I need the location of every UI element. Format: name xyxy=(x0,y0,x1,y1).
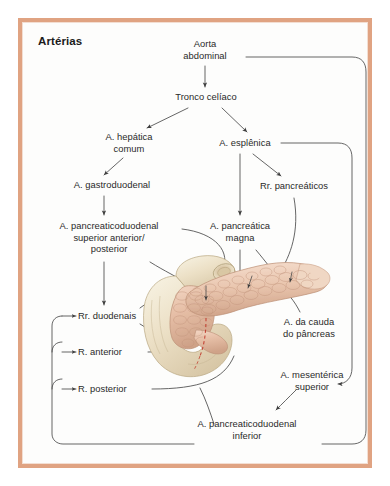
node-r-posterior: R. posterior xyxy=(78,383,156,395)
node-r-anterior: R. anterior xyxy=(78,346,150,358)
figure-root: Artérias xyxy=(0,0,390,486)
node-a-hepatica-comum: A. hepática comum xyxy=(90,131,168,154)
page-title: Artérias xyxy=(38,35,82,47)
node-a-pancreaticoduodenal-inferior: A. pancreaticoduodenal inferior xyxy=(175,418,319,441)
node-rr-duodenais: Rr. duodenais xyxy=(78,310,164,322)
node-a-pancreaticoduodenal-superior: A. pancreaticoduodenal superior anterior… xyxy=(37,220,181,255)
node-a-da-cauda-do-pancreas: A. da cauda do pâncreas xyxy=(266,316,352,339)
node-a-mesenterica-superior: A. mesentérica superior xyxy=(264,369,360,392)
node-rr-pancreaticos: Rr. pancreáticos xyxy=(243,180,345,192)
node-a-pancreatica-magna: A. pancreática magna xyxy=(194,220,286,243)
node-aorta-abdominal: Aorta abdominal xyxy=(166,38,244,61)
node-a-esplenica: A. esplênica xyxy=(206,137,284,149)
node-tronco-celiaco: Tronco celíaco xyxy=(158,91,254,103)
node-a-gastroduodenal: A. gastroduodenal xyxy=(57,179,167,191)
